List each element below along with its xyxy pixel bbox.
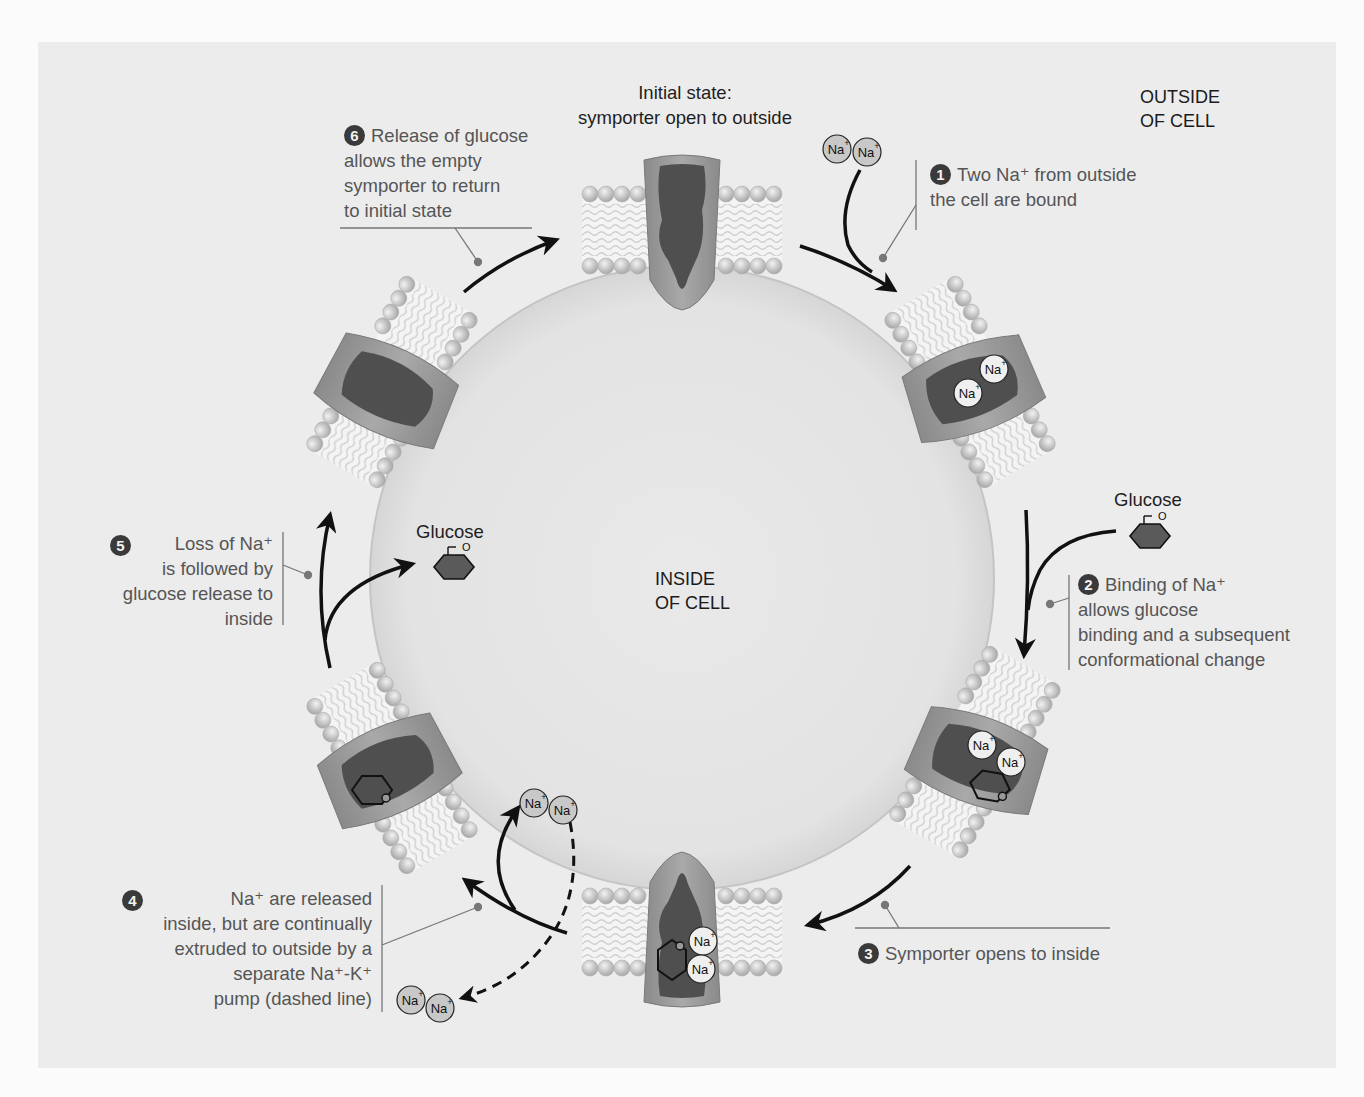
step-6-line: allows the empty xyxy=(344,148,528,173)
step-1-caption: 1Two Na⁺ from outside the cell are bound xyxy=(930,162,1136,212)
step-2-line: binding and a subsequent xyxy=(1078,622,1290,647)
step-5-line: glucose release to xyxy=(110,581,273,606)
arrow-step-5 xyxy=(321,515,330,668)
step-5-line: Loss of Na⁺ xyxy=(110,531,273,556)
initial-state-line2: symporter open to outside xyxy=(560,105,810,130)
step-4-line: extruded to outside by a xyxy=(140,936,372,961)
na-ion xyxy=(954,379,982,407)
step-4-line: pump (dashed line) xyxy=(140,986,372,1011)
glucose-label-inside: Glucose xyxy=(416,519,484,544)
step-1-badge: 1 xyxy=(930,164,951,185)
arrow-step-1 xyxy=(800,246,894,290)
step-2-caption: 2Binding of Na⁺ allows glucose binding a… xyxy=(1078,572,1290,672)
initial-state-label: Initial state: symporter open to outside xyxy=(560,80,810,130)
glucose-label-outside: Glucose xyxy=(1114,487,1182,512)
step-6-line: Release of glucose xyxy=(371,125,528,146)
step-5-line: is followed by xyxy=(110,556,273,581)
na-ion xyxy=(823,135,851,163)
na-ion xyxy=(968,731,996,759)
na-ion xyxy=(397,986,425,1014)
glucose-icon-outside xyxy=(1130,510,1170,548)
step-1-line: the cell are bound xyxy=(930,187,1136,212)
step-6-caption: 6Release of glucose allows the empty sym… xyxy=(344,123,528,223)
outside-line1: OUTSIDE xyxy=(1140,85,1220,109)
inside-line2: OF CELL xyxy=(655,591,730,615)
step-6-line: to initial state xyxy=(344,198,528,223)
na-ion xyxy=(980,355,1008,383)
na-ion xyxy=(687,955,715,983)
step-5-line: inside xyxy=(110,606,273,631)
step-6-badge: 6 xyxy=(344,125,365,146)
step-1-line: Two Na⁺ from outside xyxy=(957,164,1136,185)
na-ion xyxy=(549,796,577,824)
step-3-badge: 3 xyxy=(858,943,879,964)
step-4-line: inside, but are continually xyxy=(140,911,372,936)
arrow-na-entry xyxy=(845,170,872,272)
step-4-caption: Na⁺ are released inside, but are continu… xyxy=(140,886,372,1011)
na-ion xyxy=(426,994,454,1022)
step-5-caption: Loss of Na⁺ is followed by glucose relea… xyxy=(110,531,273,631)
arrow-step-3 xyxy=(808,866,910,925)
outside-line2: OF CELL xyxy=(1140,109,1220,133)
step-3-caption: 3Symporter opens to inside xyxy=(858,941,1100,966)
step-3-line: Symporter opens to inside xyxy=(885,943,1100,964)
inside-line1: INSIDE xyxy=(655,567,730,591)
na-ion xyxy=(689,927,717,955)
inside-of-cell-label: INSIDE OF CELL xyxy=(655,567,730,615)
outside-of-cell-label: OUTSIDE OF CELL xyxy=(1140,85,1220,133)
na-ion xyxy=(520,789,548,817)
na-ion xyxy=(997,748,1025,776)
initial-state-line1: Initial state: xyxy=(560,80,810,105)
step-2-badge: 2 xyxy=(1078,574,1099,595)
step-2-line: conformational change xyxy=(1078,647,1290,672)
step-6-line: symporter to return xyxy=(344,173,528,198)
step-2-line: Binding of Na⁺ xyxy=(1105,574,1226,595)
step-4-line: Na⁺ are released xyxy=(140,886,372,911)
step-2-line: allows glucose xyxy=(1078,597,1290,622)
na-ion xyxy=(853,138,881,166)
step-4-line: separate Na⁺-K⁺ xyxy=(140,961,372,986)
arrow-step-2 xyxy=(1024,510,1028,655)
